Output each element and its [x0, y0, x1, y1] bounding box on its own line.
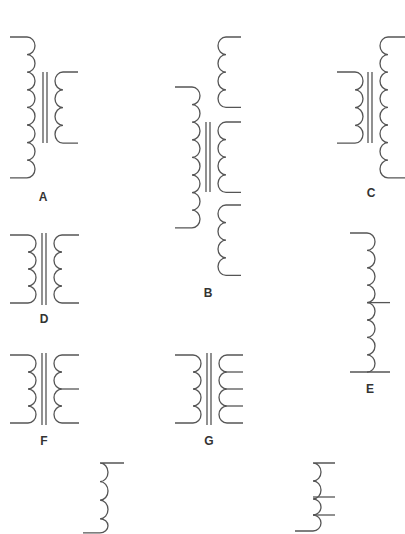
- winding: [83, 463, 124, 533]
- symbol-g-transformer: [175, 353, 243, 425]
- secondary-winding-3: [218, 205, 241, 275]
- label-b: B: [204, 286, 213, 300]
- symbol-tapped-air-core-inductor: [295, 463, 335, 531]
- symbol-air-core-inductor: [83, 463, 124, 533]
- symbol-b-transformer: [175, 37, 241, 275]
- primary-winding: [10, 235, 36, 303]
- secondary-winding-1: [218, 37, 241, 107]
- label-e: E: [366, 382, 374, 396]
- symbol-e-tapped-inductor: [350, 233, 390, 372]
- primary-winding: [337, 72, 363, 143]
- label-c: C: [367, 186, 376, 200]
- secondary-winding-2: [218, 122, 241, 192]
- symbol-a-transformer: [10, 37, 78, 178]
- primary-winding: [175, 355, 201, 423]
- secondary-winding: [55, 72, 78, 143]
- primary-winding: [10, 355, 36, 423]
- secondary-winding: [54, 235, 79, 303]
- symbol-d-transformer: [10, 233, 79, 305]
- symbol-f-transformer: [10, 353, 79, 425]
- primary-winding: [175, 87, 200, 228]
- primary-winding: [10, 37, 35, 178]
- schematic-canvas: [0, 0, 405, 534]
- label-g: G: [204, 434, 213, 448]
- symbol-c-transformer: [337, 37, 405, 178]
- secondary-winding: [380, 37, 405, 178]
- label-d: D: [40, 312, 49, 326]
- label-f: F: [40, 434, 47, 448]
- label-a: A: [39, 190, 48, 204]
